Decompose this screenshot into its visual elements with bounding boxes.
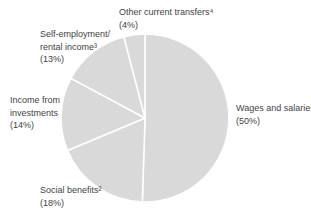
slice-label-line: (50%) — [236, 115, 311, 128]
slice-label-line: (18%) — [40, 197, 102, 210]
slice-label-line: Self-employment/ — [40, 28, 110, 41]
slice-label-line: Social benefits² — [40, 184, 102, 197]
slice-label-line: Wages and salaries¹ — [236, 102, 311, 115]
slice-label-self-employment-rental-income: Self-employment/ rental income³ (13%) — [40, 28, 110, 66]
slice-label-line: investments — [10, 107, 60, 120]
slice-label-line: (13%) — [40, 53, 110, 66]
slice-label-wages-and-salaries: Wages and salaries¹ (50%) — [236, 102, 311, 127]
pie-chart-figure: Other current transfers⁴ (4%) Self-emplo… — [0, 0, 311, 217]
slice-label-other-current-transfers: Other current transfers⁴ (4%) — [119, 6, 213, 31]
slice-label-line: Income from — [10, 94, 60, 107]
pie-slice-wages-and-salaries — [142, 34, 229, 202]
slice-label-line: rental income³ — [40, 41, 110, 54]
slice-label-social-benefits: Social benefits² (18%) — [40, 184, 102, 209]
slice-label-line: (14%) — [10, 119, 60, 132]
slice-label-income-from-investments: Income from investments (14%) — [10, 94, 60, 132]
slice-label-line: (4%) — [119, 19, 213, 32]
slice-label-line: Other current transfers⁴ — [119, 6, 213, 19]
